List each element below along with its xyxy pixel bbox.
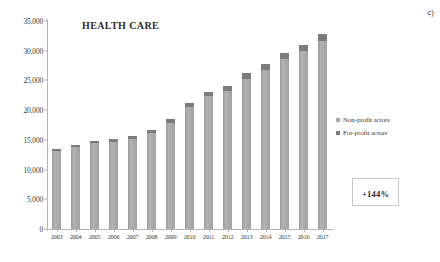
bar-slot <box>47 21 66 229</box>
legend-item[interactable]: For-profit actors <box>336 129 390 137</box>
panel-label: c) <box>427 8 434 17</box>
bar-slot <box>161 21 180 229</box>
stacked-bar <box>71 145 80 229</box>
x-tick-label: 2011 <box>199 233 218 240</box>
x-tick-label: 2013 <box>237 233 256 240</box>
bar-segment-non-profit <box>109 142 118 229</box>
bar-slot <box>180 21 199 229</box>
bar-slot <box>294 21 313 229</box>
stacked-bar <box>52 149 61 229</box>
stacked-bar <box>166 119 175 229</box>
stacked-bar <box>204 92 213 229</box>
bar-segment-non-profit <box>204 96 213 229</box>
stacked-bar <box>223 86 232 229</box>
bar-segment-non-profit <box>223 91 232 229</box>
x-tick-label: 2012 <box>218 233 237 240</box>
bar-segment-non-profit <box>90 143 99 229</box>
x-tick-mark <box>95 229 96 232</box>
y-tick-label: 10,000 <box>24 165 43 174</box>
x-tick-label: 2010 <box>180 233 199 240</box>
bar-segment-non-profit <box>318 41 327 229</box>
health-care-bar-chart-figure: c) HEALTH CARE 05,00010,00015,00020,0002… <box>0 0 440 262</box>
plot-area: 05,00010,00015,00020,00025,00030,00035,0… <box>47 21 332 229</box>
x-tick-mark <box>114 229 115 232</box>
x-tick-mark <box>133 229 134 232</box>
stacked-bar <box>128 136 137 229</box>
legend-item-label: Non-profit actors <box>343 116 390 124</box>
legend-swatch-icon <box>336 131 340 135</box>
legend-swatch-icon <box>336 118 340 122</box>
bar-segment-non-profit <box>185 107 194 229</box>
stacked-bar <box>147 130 156 229</box>
bar-segment-non-profit <box>280 59 289 229</box>
stacked-bar <box>109 139 118 229</box>
bar-slot <box>199 21 218 229</box>
x-tick-label: 2009 <box>161 233 180 240</box>
x-tick-label: 2006 <box>104 233 123 240</box>
stacked-bar <box>90 141 99 229</box>
bar-segment-non-profit <box>71 147 80 229</box>
bar-slot <box>237 21 256 229</box>
x-tick-label: 2016 <box>294 233 313 240</box>
x-tick-mark <box>228 229 229 232</box>
bar-segment-non-profit <box>166 123 175 229</box>
stacked-bar <box>280 53 289 229</box>
stacked-bar <box>185 103 194 229</box>
x-tick-mark <box>190 229 191 232</box>
legend-item-label: For-profit actors <box>343 129 387 137</box>
x-tick-mark <box>247 229 248 232</box>
bar-slot <box>104 21 123 229</box>
stacked-bar <box>299 45 308 229</box>
stacked-bar <box>261 64 270 229</box>
x-axis-line <box>47 229 334 230</box>
x-tick-label: 2004 <box>66 233 85 240</box>
stacked-bar <box>318 34 327 229</box>
stacked-bar <box>242 73 251 229</box>
x-axis-labels: 2003200420052006200720082009201020112012… <box>47 233 332 240</box>
growth-callout-value: +144% <box>362 189 389 199</box>
x-tick-mark <box>266 229 267 232</box>
y-tick-label: 5,000 <box>27 195 43 204</box>
bar-segment-non-profit <box>261 70 270 229</box>
bar-series-group <box>47 21 332 229</box>
bar-segment-non-profit <box>242 79 251 229</box>
x-tick-label: 2008 <box>142 233 161 240</box>
x-tick-label: 2003 <box>47 233 66 240</box>
bar-slot <box>142 21 161 229</box>
bar-slot <box>275 21 294 229</box>
bar-slot <box>218 21 237 229</box>
bar-segment-non-profit <box>147 133 156 229</box>
x-tick-mark <box>76 229 77 232</box>
x-tick-label: 2014 <box>256 233 275 240</box>
x-tick-mark <box>323 229 324 232</box>
legend-item[interactable]: Non-profit actors <box>336 116 390 124</box>
x-tick-label: 2007 <box>123 233 142 240</box>
bar-slot <box>85 21 104 229</box>
bar-segment-non-profit <box>299 51 308 229</box>
y-tick-label: 25,000 <box>24 76 43 85</box>
bar-slot <box>256 21 275 229</box>
y-tick-label: 15,000 <box>24 135 43 144</box>
x-tick-mark <box>285 229 286 232</box>
y-tick-label: 0 <box>39 225 43 234</box>
x-tick-label: 2005 <box>85 233 104 240</box>
x-tick-label: 2015 <box>275 233 294 240</box>
chart-legend: Non-profit actorsFor-profit actors <box>336 116 390 142</box>
y-tick-label: 35,000 <box>24 17 43 26</box>
x-tick-mark <box>152 229 153 232</box>
growth-callout: +144% <box>352 178 399 206</box>
x-tick-mark <box>57 229 58 232</box>
bar-slot <box>313 21 332 229</box>
y-tick-label: 20,000 <box>24 106 43 115</box>
bar-segment-non-profit <box>52 151 61 229</box>
x-tick-label: 2017 <box>313 233 332 240</box>
bar-slot <box>66 21 85 229</box>
x-tick-mark <box>209 229 210 232</box>
x-tick-mark <box>304 229 305 232</box>
bar-slot <box>123 21 142 229</box>
x-tick-mark <box>171 229 172 232</box>
y-tick-label: 30,000 <box>24 46 43 55</box>
bar-segment-non-profit <box>128 139 137 229</box>
